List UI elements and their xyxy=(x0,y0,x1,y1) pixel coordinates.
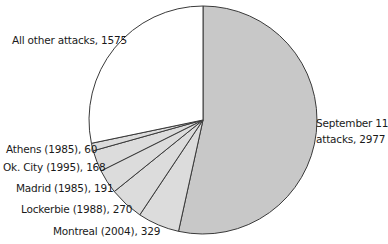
label-okcity: Ok. City (1995), 168 xyxy=(3,161,106,174)
label-lockerbie: Lockerbie (1988), 270 xyxy=(21,203,132,216)
label-sept11-line2: attacks, 2977 xyxy=(316,133,385,146)
slice-all-other xyxy=(89,6,203,143)
label-montreal: Montreal (2004), 329 xyxy=(53,225,160,238)
label-madrid: Madrid (1985), 191 xyxy=(16,182,113,195)
label-sept11-line1: September 11 xyxy=(316,117,388,130)
label-athens: Athens (1985), 60 xyxy=(6,143,97,156)
label-all-other: All other attacks, 1575 xyxy=(12,34,127,47)
